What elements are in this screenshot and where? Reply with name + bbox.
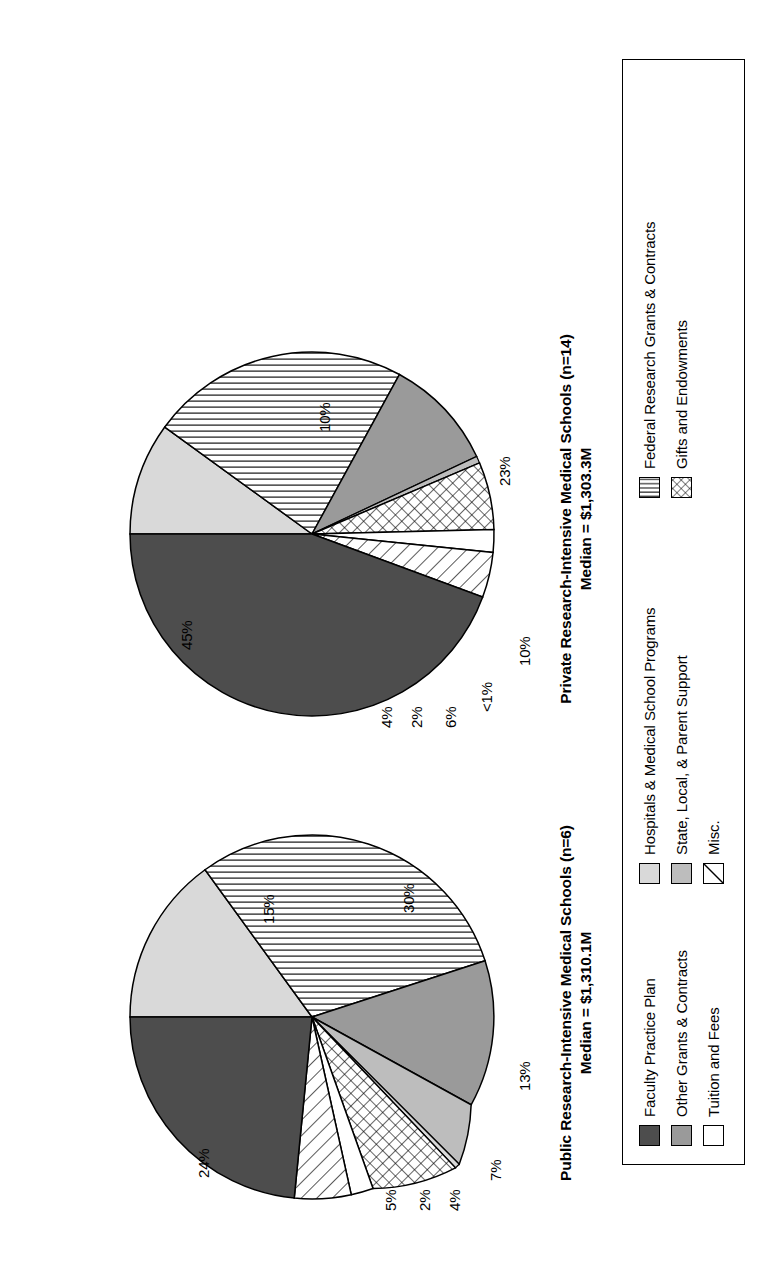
pct-gifts: 6%: [442, 707, 459, 728]
legend-item-state-local-parent-support[interactable]: State, Local, & Parent Support: [671, 498, 692, 884]
legend-item-other-grants[interactable]: Other Grants & Contracts: [671, 884, 692, 1146]
pct-tuition: 2%: [408, 707, 425, 728]
solid-white-swatch-icon: [703, 1125, 724, 1146]
public-pie-svg: [64, 793, 564, 1213]
pct-federal: 30%: [400, 884, 417, 913]
pct-federal: 23%: [496, 457, 513, 486]
solid-mid-light-gray-swatch-icon: [671, 863, 692, 884]
legend-label: Gifts and Endowments: [673, 320, 690, 469]
public-pie-title-line2: Median = $1,310.1M: [576, 793, 596, 1213]
slice-faculty-practice-plan: [130, 1017, 312, 1198]
diagonal-hatch-swatch-icon: [703, 863, 724, 884]
pct-faculty: 45%: [178, 621, 195, 650]
private-pie-svg: [64, 304, 564, 734]
pct-hospitals: 15%: [260, 895, 277, 924]
legend-column-2: Hospitals & Medical School Programs Stat…: [639, 498, 724, 884]
solid-dark-gray-swatch-icon: [639, 1125, 660, 1146]
rotated-sheet: 15% 30% 13% 7% 4% 2% 5% 24% Public Resea…: [0, 0, 757, 1269]
pct-other: 13%: [516, 1062, 533, 1091]
legend-label: Federal Research Grants & Contracts: [641, 222, 658, 469]
private-pie-title-line2: Median = $1,303.3M: [576, 304, 596, 734]
vertical-line-hatch-swatch-icon: [639, 477, 660, 498]
pct-misc: 4%: [378, 707, 395, 728]
legend-label: Other Grants & Contracts: [673, 950, 690, 1117]
solid-light-gray-swatch-icon: [639, 863, 660, 884]
legend-item-tuition-and-fees[interactable]: Tuition and Fees: [703, 884, 724, 1146]
legend-label: State, Local, & Parent Support: [673, 655, 690, 855]
legend-column-3: Federal Research Grants & Contracts Gift…: [639, 98, 692, 498]
legend-label: Faculty Practice Plan: [641, 978, 658, 1117]
legend-label: Tuition and Fees: [705, 1007, 722, 1117]
legend-item-federal-research-grants[interactable]: Federal Research Grants & Contracts: [639, 98, 660, 498]
public-pie-chart: 15% 30% 13% 7% 4% 2% 5% 24% Public Resea…: [64, 793, 597, 1213]
pct-other: 10%: [516, 637, 533, 666]
pct-tuition: 2%: [416, 1190, 433, 1211]
pct-state-tiny: <1%: [478, 682, 495, 712]
pct-hospitals: 10%: [316, 403, 333, 432]
legend-item-hospitals-medical-school-programs[interactable]: Hospitals & Medical School Programs: [639, 498, 660, 884]
legend-item-faculty-practice-plan[interactable]: Faculty Practice Plan: [639, 884, 660, 1146]
private-pie-chart: 10% 23% 10% <1% 6% 2% 4% 45% Private Res…: [64, 304, 597, 734]
legend-label: Misc.: [705, 821, 722, 856]
pct-gifts: 4%: [446, 1190, 463, 1211]
pct-state: 7%: [487, 1160, 504, 1181]
legend-item-gifts-and-endowments[interactable]: Gifts and Endowments: [671, 98, 692, 498]
legend: Faculty Practice Plan Other Grants & Con…: [622, 59, 745, 1165]
legend-item-misc[interactable]: Misc.: [703, 498, 724, 884]
legend-label: Hospitals & Medical School Programs: [641, 608, 658, 855]
pct-faculty: 24%: [195, 1149, 212, 1178]
pct-misc: 5%: [382, 1190, 399, 1211]
chart-page: 15% 30% 13% 7% 4% 2% 5% 24% Public Resea…: [0, 0, 757, 1269]
legend-column-1: Faculty Practice Plan Other Grants & Con…: [639, 884, 724, 1146]
solid-medium-gray-swatch-icon: [671, 1125, 692, 1146]
cross-hatch-swatch-icon: [671, 477, 692, 498]
